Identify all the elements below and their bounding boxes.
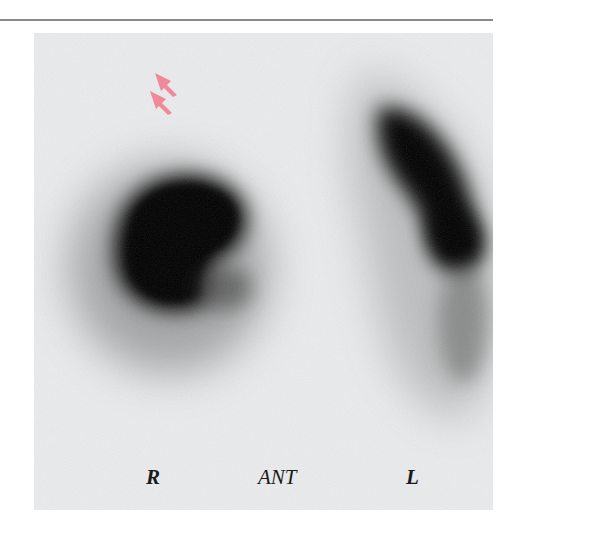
top-rule bbox=[0, 19, 493, 21]
arrow-icon bbox=[153, 71, 181, 99]
scan-graphic bbox=[34, 33, 493, 510]
scan-noise bbox=[34, 33, 493, 510]
label-left: L bbox=[406, 465, 419, 490]
scan-image bbox=[34, 33, 493, 510]
label-right: R bbox=[146, 465, 160, 490]
label-anterior: ANT bbox=[258, 465, 297, 490]
